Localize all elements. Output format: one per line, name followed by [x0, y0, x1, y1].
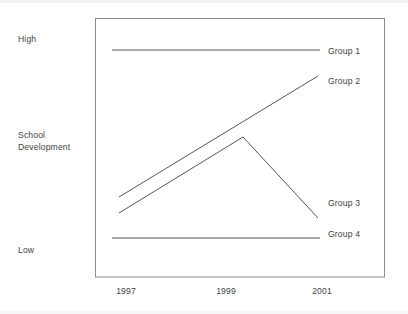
- y-axis-title-line2: Development: [18, 142, 71, 152]
- series-line-group-3: [119, 137, 318, 218]
- series-label-group-3: Group 3: [328, 198, 360, 208]
- x-axis-tick-1999: 1999: [216, 286, 236, 296]
- figure-canvas: High School Development Low Group 1 Grou…: [0, 0, 408, 314]
- series-label-group-4: Group 4: [328, 229, 360, 239]
- x-axis-tick-1997: 1997: [116, 286, 136, 296]
- y-axis-high-label: High: [18, 34, 36, 44]
- y-axis-low-label: Low: [18, 245, 35, 255]
- y-axis-title-line1: School: [18, 130, 45, 140]
- series-label-group-2: Group 2: [328, 76, 360, 86]
- x-axis-tick-2001: 2001: [312, 286, 332, 296]
- series-line-group-2: [119, 76, 318, 197]
- series-label-group-1: Group 1: [328, 46, 360, 56]
- line-chart: High School Development Low Group 1 Grou…: [0, 0, 408, 314]
